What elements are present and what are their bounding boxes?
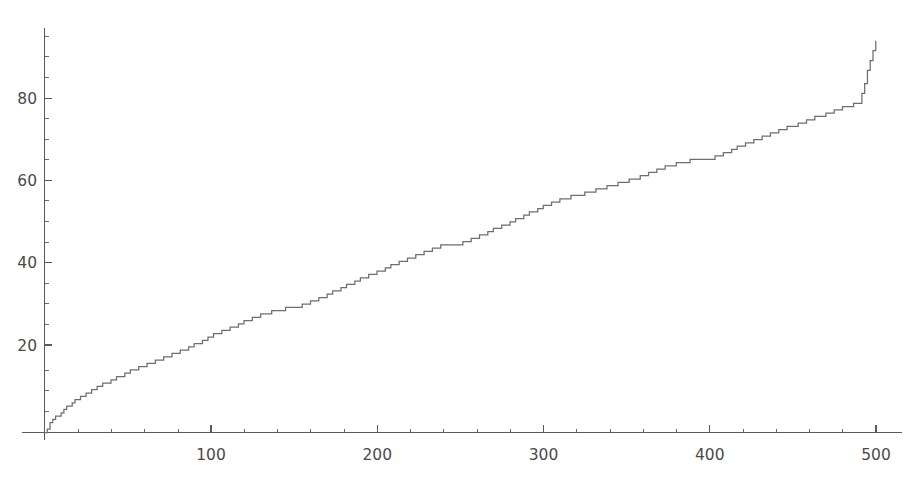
x-axis-minor-ticks	[78, 429, 843, 433]
y-axis-tick-labels: 20 40 60 80	[17, 90, 37, 355]
y-tick-label: 60	[17, 172, 37, 190]
x-tick-label: 200	[362, 446, 392, 464]
x-tick-label: 400	[695, 446, 725, 464]
y-tick-label: 40	[17, 254, 37, 272]
x-tick-label: 100	[196, 446, 226, 464]
x-tick-label: 500	[861, 446, 891, 464]
chart-figure: 100 200 300 400 500 20 40 60 80	[0, 0, 910, 483]
x-axis-tick-labels: 100 200 300 400 500	[196, 446, 891, 464]
plot-area: 100 200 300 400 500 20 40 60 80	[0, 0, 910, 483]
y-tick-label: 20	[17, 337, 37, 355]
x-tick-label: 300	[529, 446, 559, 464]
y-axis-minor-ticks	[45, 36, 50, 411]
data-series-line	[45, 41, 876, 433]
y-tick-label: 80	[17, 90, 37, 108]
